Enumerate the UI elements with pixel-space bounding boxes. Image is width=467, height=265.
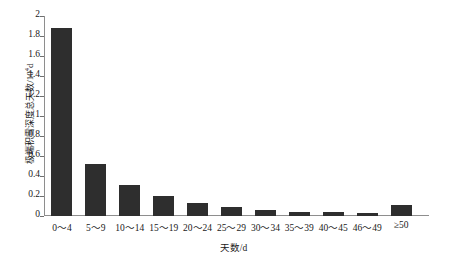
y-tick-mark xyxy=(40,36,44,37)
bar-slot[interactable] xyxy=(255,16,276,216)
bar[interactable] xyxy=(357,213,378,216)
bar-slot[interactable] xyxy=(153,16,174,216)
bar-slot[interactable] xyxy=(221,16,242,216)
x-tick-label: 5～9 xyxy=(79,220,113,234)
y-tick-label: 1.4 xyxy=(28,69,40,79)
y-tick-mark xyxy=(40,136,44,137)
bar-slot[interactable] xyxy=(357,16,378,216)
plot-area: 00.20.40.60.811.21.41.61.82 0～45～910～141… xyxy=(44,16,417,216)
x-tick-label: 20～24 xyxy=(181,220,215,234)
y-tick-mark xyxy=(40,16,44,17)
chart-figure: 极端积雪深度总天数/104d 00.20.40.60.811.21.41.61.… xyxy=(0,0,467,265)
bar[interactable] xyxy=(323,212,344,217)
bar-series xyxy=(45,16,417,216)
y-tick-mark xyxy=(40,96,44,97)
x-tick-label: 35～39 xyxy=(282,220,316,234)
y-tick-mark xyxy=(40,156,44,157)
bar[interactable] xyxy=(391,205,412,216)
y-tick-label: 0 xyxy=(35,209,40,219)
bar-slot[interactable] xyxy=(85,16,106,216)
x-axis-title: 天数/d xyxy=(0,240,467,254)
y-tick-label: 0.4 xyxy=(28,169,40,179)
bar-slot[interactable] xyxy=(119,16,140,216)
y-tick-label: 1.2 xyxy=(28,89,40,99)
x-tick-label: 40～45 xyxy=(316,220,350,234)
x-tick-label: 30～34 xyxy=(248,220,282,234)
bar[interactable] xyxy=(51,28,72,216)
bar[interactable] xyxy=(221,207,242,216)
y-tick-mark xyxy=(40,176,44,177)
x-tick-label: 10～14 xyxy=(113,220,147,234)
y-tick-mark xyxy=(40,76,44,77)
bar[interactable] xyxy=(289,212,310,217)
y-tick-label: 2 xyxy=(35,9,40,19)
x-tick-label: 15～19 xyxy=(147,220,181,234)
x-tick-label: 46～49 xyxy=(350,220,384,234)
x-tick-label: 25～29 xyxy=(215,220,249,234)
y-tick-mark xyxy=(40,56,44,57)
y-tick-label: 1 xyxy=(35,109,40,119)
y-tick-mark xyxy=(40,116,44,117)
y-tick-label: 1.8 xyxy=(28,29,40,39)
y-tick-label: 1.6 xyxy=(28,49,40,59)
bar-slot[interactable] xyxy=(323,16,344,216)
bar[interactable] xyxy=(119,185,140,216)
bar[interactable] xyxy=(85,164,106,216)
y-axis-title-unit: d xyxy=(25,63,35,68)
y-tick-mark xyxy=(40,216,44,217)
bar-slot[interactable] xyxy=(51,16,72,216)
bar[interactable] xyxy=(187,203,208,216)
y-tick-mark xyxy=(40,196,44,197)
y-tick-label: 0.6 xyxy=(28,149,40,159)
bar-slot[interactable] xyxy=(289,16,310,216)
x-tick-label: 0～4 xyxy=(45,220,79,234)
y-tick-label: 0.8 xyxy=(28,129,40,139)
bar-slot[interactable] xyxy=(391,16,412,216)
bar-slot[interactable] xyxy=(187,16,208,216)
y-tick-label: 0.2 xyxy=(28,189,40,199)
bar[interactable] xyxy=(255,210,276,217)
bar[interactable] xyxy=(153,196,174,216)
x-tick-label: ≥50 xyxy=(384,220,418,230)
